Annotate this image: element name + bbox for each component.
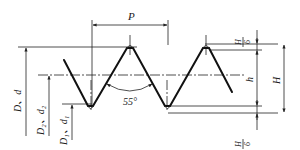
minor-diameter-label: D₁、d₁	[58, 116, 69, 146]
thread-profile	[64, 46, 232, 109]
pitch-label: P	[127, 10, 135, 22]
pitch-dimension: P	[92, 10, 168, 108]
bottom-fraction-numerator: H	[234, 140, 243, 148]
pitch-diameter-label: D₂、d₂	[35, 105, 46, 136]
top-truncation-fraction: H 6	[234, 37, 252, 47]
top-fraction-denominator: 6	[243, 40, 252, 44]
bottom-truncation-fraction: H 6	[234, 139, 252, 149]
minor-diameter-dimension: D₁、d₁	[58, 105, 72, 146]
pitch-diameter-dimension: D₂、d₂	[35, 76, 49, 136]
working-height-label: h	[244, 77, 255, 82]
bottom-fraction-denominator: 6	[243, 142, 252, 146]
thread-profile-diagram: P 55° D、d D₂、d₂ D₁、d₁	[0, 0, 300, 150]
major-diameter-label: D、d	[12, 89, 23, 113]
top-fraction-numerator: H	[234, 38, 243, 46]
fundamental-height-dimension: H	[271, 45, 284, 112]
angle-indicator: 55°	[107, 84, 152, 107]
major-diameter-dimension: D、d	[12, 48, 26, 136]
angle-label: 55°	[123, 96, 137, 107]
working-height-dimension: h	[244, 30, 257, 130]
fundamental-height-label: H	[271, 76, 282, 85]
